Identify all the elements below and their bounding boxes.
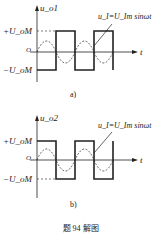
- panel-a-minus-label: −U_oM: [3, 66, 32, 75]
- panel-a-plus-label: +U_oM: [3, 27, 32, 36]
- panel-a-y-label: u_o1: [40, 4, 58, 13]
- panel-b-y-label: u_o2: [40, 114, 58, 123]
- panel-a-t-label: t: [140, 48, 143, 57]
- panel-a-origin: O: [26, 46, 31, 55]
- panel-a-annotation: u_I=U_Im sinωt: [98, 12, 152, 21]
- panel-a-caption: a): [70, 90, 76, 99]
- panel-b-annotation: u_I=U_Im sinωt: [98, 121, 152, 130]
- panel-b-t-label: t: [140, 156, 143, 165]
- figure-caption: 题 94 解图: [0, 222, 161, 233]
- panel-b-caption: b): [70, 200, 77, 209]
- panel-b-minus-label: −U_oM: [3, 175, 32, 184]
- panel-b-origin: O: [26, 154, 31, 163]
- panel-b-plus-label: +U_oM: [3, 137, 32, 146]
